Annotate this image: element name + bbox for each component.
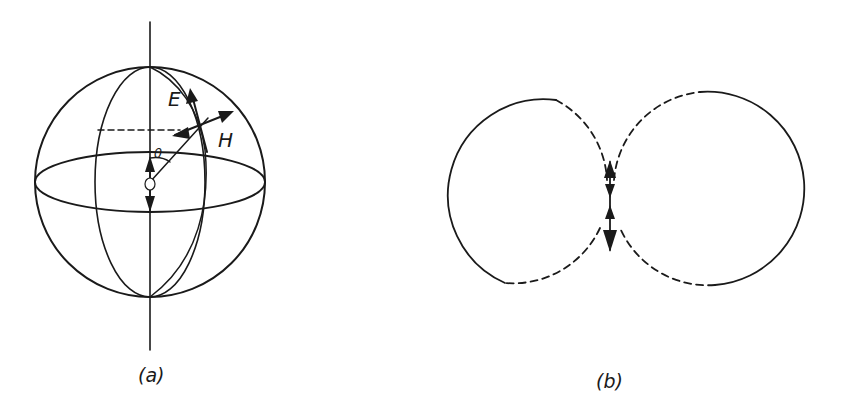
- label-h: H: [218, 128, 233, 152]
- left-lobe-dashed-bottom: [505, 228, 600, 283]
- caption-b: (b): [596, 370, 623, 392]
- label-theta: θ: [154, 146, 162, 161]
- panel-b-radiation-pattern: (b): [448, 92, 804, 392]
- right-lobe-dashed-bottom: [620, 228, 715, 285]
- right-lobe-dashed-top: [614, 92, 700, 180]
- figure-canvas: E H θ (a) (b): [0, 0, 843, 415]
- left-lobe-solid: [448, 99, 556, 283]
- left-lobe-dashed-top: [556, 100, 607, 180]
- label-e: E: [168, 87, 181, 111]
- caption-a: (a): [138, 364, 164, 386]
- dipole-icon: [145, 156, 155, 212]
- right-lobe-solid: [700, 92, 804, 285]
- panel-a-sphere: E H θ (a): [35, 22, 265, 386]
